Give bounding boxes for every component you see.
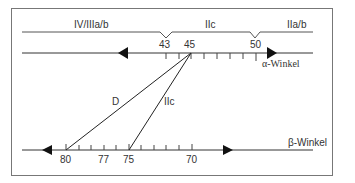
- beta-arrow-left-icon: [42, 145, 52, 155]
- alpha-ticks: [166, 53, 256, 61]
- beta-tick-80: 80: [60, 154, 72, 165]
- line-iic: [129, 53, 191, 150]
- alpha-axis-label: α-Winkel: [262, 58, 300, 69]
- alpha-arrow-left-icon: [118, 47, 128, 59]
- line-iic-label: IIc: [164, 96, 175, 107]
- angle-diagram: IV/IIIa/b IIc IIa/b 43 45 50 α-Winkel D …: [0, 0, 355, 183]
- region-label-middle: IIc: [205, 19, 216, 30]
- alpha-tick-43: 43: [159, 39, 171, 50]
- alpha-tick-45: 45: [184, 39, 196, 50]
- region-label-left: IV/IIIa/b: [74, 19, 109, 30]
- line-d-label: D: [112, 96, 119, 107]
- alpha-tick-50: 50: [250, 39, 262, 50]
- beta-axis-label: β-Winkel: [288, 137, 327, 148]
- beta-arrow-right-icon: [223, 145, 233, 155]
- beta-tick-75: 75: [123, 154, 135, 165]
- beta-tick-77: 77: [98, 154, 110, 165]
- region-label-right: IIa/b: [287, 19, 307, 30]
- region-bracket: [22, 32, 313, 38]
- beta-tick-70: 70: [186, 154, 198, 165]
